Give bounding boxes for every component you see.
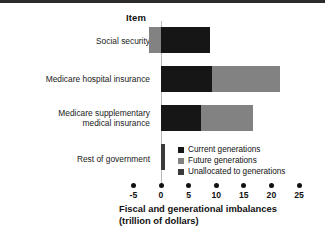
fiscal-imbalance-bar-chart: Item Social security Medicare hospital i… xyxy=(0,3,325,238)
x-axis: -5 0 5 10 15 20 25 xyxy=(0,183,325,205)
x-tick-dot-minus5 xyxy=(131,183,136,188)
x-tick-dot-25 xyxy=(297,183,302,188)
x-tick-dot-20 xyxy=(269,183,274,188)
legend-swatch-icon-unallocated xyxy=(178,169,184,175)
legend-item-future-generations: Future generations xyxy=(178,155,285,166)
legend-swatch-icon-future xyxy=(178,158,184,164)
bar-segment-medicare-supplementary-current xyxy=(161,105,201,131)
legend-label-unallocated-to-generations: Unallocated to generations xyxy=(188,166,285,177)
legend-item-unallocated-to-generations: Unallocated to generations xyxy=(178,166,285,177)
x-tick-label-0: 0 xyxy=(159,190,164,200)
bar-segment-medicare-hospital-future xyxy=(212,66,280,92)
bar-segment-medicare-hospital-current xyxy=(161,66,212,92)
x-tick-label-15: 15 xyxy=(239,190,249,200)
bar-segment-social-security-future xyxy=(149,27,161,53)
x-tick-dot-10 xyxy=(214,183,219,188)
legend-item-current-generations: Current generations xyxy=(178,144,285,155)
x-axis-title: Fiscal and generational imbalances (tril… xyxy=(119,203,277,226)
legend-label-future-generations: Future generations xyxy=(188,155,257,166)
x-tick-dot-0 xyxy=(159,183,164,188)
x-tick-dot-15 xyxy=(241,183,246,188)
bar-segment-rest-of-government-unallocated xyxy=(161,144,165,170)
bar-segment-medicare-supplementary-future xyxy=(201,105,254,131)
x-tick-label-5: 5 xyxy=(186,190,191,200)
x-tick-label-10: 10 xyxy=(211,190,221,200)
x-tick-dot-5 xyxy=(186,183,191,188)
x-tick-label-minus5: -5 xyxy=(130,190,138,200)
legend-label-current-generations: Current generations xyxy=(188,144,260,155)
legend-swatch-icon-current xyxy=(178,147,184,153)
bar-segment-social-security-current xyxy=(161,27,210,53)
x-tick-label-25: 25 xyxy=(294,190,304,200)
x-tick-label-20: 20 xyxy=(267,190,277,200)
chart-legend: Current generations Future generations U… xyxy=(178,144,285,178)
